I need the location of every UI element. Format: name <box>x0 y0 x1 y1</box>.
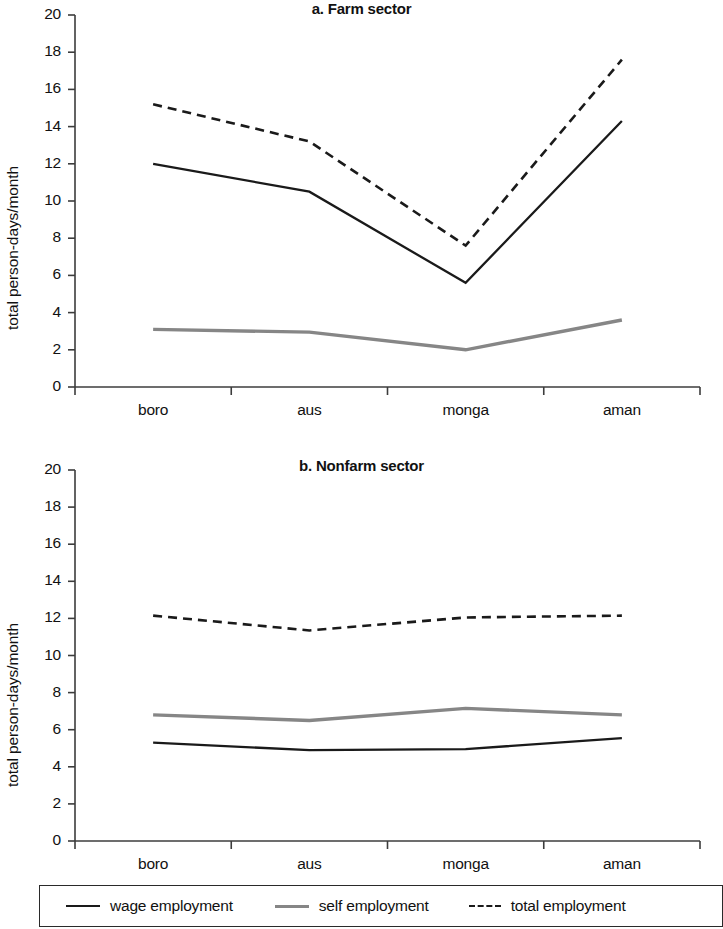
series-line-wage-employment <box>153 738 622 750</box>
figure-employment-by-season: a. Farm sector total person-days/month 0… <box>0 0 723 929</box>
plot-area-farm <box>0 0 723 440</box>
series-line-total-employment <box>153 616 622 631</box>
chart-legend: wage employment self employment total em… <box>39 885 723 927</box>
y-tick-label: 0 <box>27 377 61 395</box>
y-tick-label: 2 <box>27 794 61 812</box>
y-tick-label: 4 <box>27 303 61 321</box>
y-tick-label: 18 <box>27 497 61 515</box>
x-tick-label-boro: boro <box>98 855 208 873</box>
legend-item-wage-employment: wage employment <box>66 897 233 915</box>
legend-label-total-employment: total employment <box>511 897 626 915</box>
y-tick-label: 16 <box>27 534 61 552</box>
legend-label-wage-employment: wage employment <box>110 897 233 915</box>
legend-item-total-employment: total employment <box>469 897 626 915</box>
legend-line-solid-black-icon <box>66 905 100 907</box>
y-tick-label: 12 <box>27 608 61 626</box>
y-tick-label: 10 <box>27 191 61 209</box>
series-line-total-employment <box>153 60 622 246</box>
y-tick-label: 12 <box>27 154 61 172</box>
chart-panel-nonfarm: b. Nonfarm sector total person-days/mont… <box>0 447 723 877</box>
x-tick-label-boro: boro <box>98 401 208 419</box>
x-tick-label-monga: monga <box>411 401 521 419</box>
x-tick-label-aman: aman <box>567 855 677 873</box>
y-tick-label: 18 <box>27 42 61 60</box>
y-tick-label: 10 <box>27 646 61 664</box>
x-tick-label-aus: aus <box>254 401 364 419</box>
x-tick-label-aus: aus <box>254 855 364 873</box>
x-tick-label-monga: monga <box>411 855 521 873</box>
x-tick-label-aman: aman <box>567 401 677 419</box>
y-tick-label: 4 <box>27 757 61 775</box>
y-tick-label: 6 <box>27 720 61 738</box>
y-tick-label: 20 <box>27 460 61 478</box>
y-tick-label: 14 <box>27 571 61 589</box>
y-tick-label: 16 <box>27 79 61 97</box>
legend-label-self-employment: self employment <box>319 897 429 915</box>
y-tick-label: 8 <box>27 228 61 246</box>
series-line-self-employment <box>153 320 622 350</box>
legend-line-solid-gray-icon <box>275 905 309 908</box>
y-tick-label: 20 <box>27 5 61 23</box>
y-tick-label: 2 <box>27 340 61 358</box>
legend-line-dashed-black-icon <box>469 905 501 907</box>
y-tick-label: 6 <box>27 265 61 283</box>
y-tick-label: 14 <box>27 117 61 135</box>
y-tick-label: 8 <box>27 683 61 701</box>
series-line-self-employment <box>153 708 622 720</box>
y-tick-label: 0 <box>27 831 61 849</box>
legend-item-self-employment: self employment <box>275 897 429 915</box>
chart-panel-farm: a. Farm sector total person-days/month 0… <box>0 0 723 440</box>
plot-area-nonfarm <box>0 447 723 877</box>
